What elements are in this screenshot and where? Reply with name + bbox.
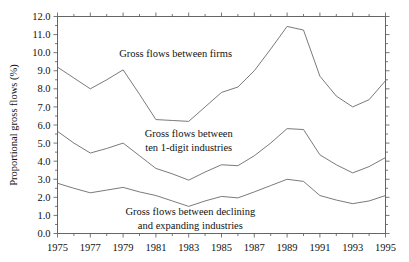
y-axis-tick-label: 8.0 <box>37 83 50 94</box>
annot-industries-line-2: ten 1-digit industries <box>145 142 232 153</box>
series-line-1 <box>58 26 386 121</box>
annot-firms: Gross flows between firms <box>119 48 232 59</box>
x-axis-tick-label: 1979 <box>113 242 134 253</box>
y-axis-tick-label: 2.0 <box>37 192 50 203</box>
x-axis-tick-label: 1995 <box>375 242 396 253</box>
y-axis-tick-label: 10.0 <box>32 47 50 58</box>
y-axis-tick-label: 3.0 <box>37 174 50 185</box>
x-axis-tick-label: 1991 <box>309 242 330 253</box>
annot-declining: Gross flows between decliningand expandi… <box>125 206 256 231</box>
annot-firms-line-1: Gross flows between firms <box>119 48 232 59</box>
x-axis-tick-label: 1977 <box>80 242 101 253</box>
series-line-3 <box>58 179 386 206</box>
y-axis-tick-label: 9.0 <box>37 65 50 76</box>
y-axis-tick-label: 12.0 <box>32 11 50 22</box>
x-axis-tick-label: 1987 <box>244 242 265 253</box>
annot-declining-line-2: and expanding industries <box>138 220 243 231</box>
y-axis-tick-label: 0.0 <box>37 228 50 239</box>
x-axis-tick-label: 1975 <box>47 242 68 253</box>
annot-declining-line-1: Gross flows between declining <box>125 206 256 217</box>
x-axis-tick-label: 1981 <box>145 242 166 253</box>
x-axis-tick-label: 1993 <box>342 242 363 253</box>
y-axis-tick-label: 6.0 <box>37 120 50 131</box>
chart-container: 0.01.02.03.04.05.06.07.08.09.010.011.012… <box>0 0 409 262</box>
y-axis-tick-label: 7.0 <box>37 102 50 113</box>
annot-industries-line-1: Gross flows between <box>145 128 234 139</box>
x-axis-tick-label: 1985 <box>211 242 232 253</box>
x-axis-tick-label: 1983 <box>178 242 199 253</box>
y-axis-tick-label: 5.0 <box>37 138 50 149</box>
line-chart: 0.01.02.03.04.05.06.07.08.09.010.011.012… <box>0 0 409 262</box>
y-axis-tick-label: 4.0 <box>37 156 50 167</box>
y-axis-tick-label: 11.0 <box>33 29 51 40</box>
y-axis-tick-label: 1.0 <box>37 210 50 221</box>
annot-industries: Gross flows betweenten 1-digit industrie… <box>145 128 234 153</box>
x-axis-tick-label: 1989 <box>277 242 298 253</box>
y-axis-title: Proportional gross flows (%) <box>8 64 20 186</box>
